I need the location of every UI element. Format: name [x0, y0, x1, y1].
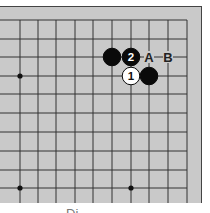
- black-stone: [103, 48, 121, 66]
- marker-label-b: B: [163, 50, 172, 65]
- marker-label-a: A: [144, 50, 154, 65]
- star-point: [128, 185, 133, 190]
- star-point: [17, 73, 22, 78]
- diagram-caption: Di: [66, 206, 78, 213]
- board-background: [0, 6, 202, 203]
- go-board: AB 21: [0, 0, 210, 213]
- black-stone: [140, 67, 158, 85]
- star-point: [17, 185, 22, 190]
- stone-number: 1: [128, 70, 135, 82]
- stone-number: 2: [128, 51, 134, 63]
